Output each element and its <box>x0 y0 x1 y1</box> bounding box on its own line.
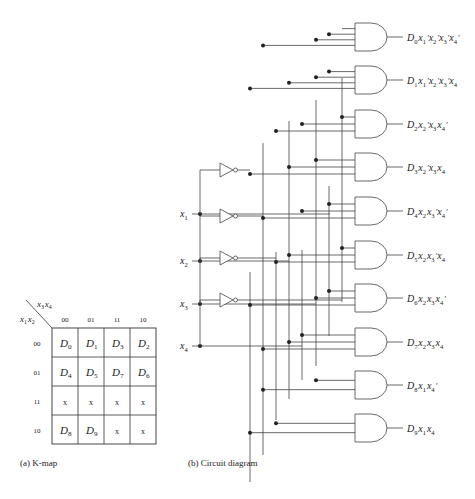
kmap-cell: D9 <box>85 424 98 439</box>
circuit-caption: (b) Circuit diagram <box>188 458 257 468</box>
kmap-cell-dontcare: x <box>115 427 119 436</box>
and-gate-icon <box>355 328 387 356</box>
input-label-x4: x4 <box>179 340 189 353</box>
junction-dot <box>248 86 252 90</box>
output-label-D9: D9 x1 x4 <box>406 423 435 436</box>
kmap-col-header: 00 <box>62 316 70 324</box>
kmap-row-header: 11 <box>34 398 41 406</box>
junction-dot <box>327 289 331 293</box>
junction-dot <box>287 165 291 169</box>
kmap-row-variable: x1 x2 <box>19 314 35 325</box>
junction-dot <box>261 347 265 351</box>
junction-dot <box>274 421 278 425</box>
junction-dot <box>300 122 304 126</box>
kmap-col-header: 11 <box>114 316 121 324</box>
and-gate-icon <box>355 414 387 442</box>
kmap-row-header: 00 <box>34 340 42 348</box>
junction-dot <box>274 260 278 264</box>
junction-dot <box>314 75 318 79</box>
and-gate-icon <box>355 153 387 181</box>
kmap-cell-dontcare: x <box>141 427 145 436</box>
kmap-cell: D8 <box>59 424 72 439</box>
kmap-row-header: 01 <box>34 369 42 377</box>
and-gate-icon <box>355 371 387 399</box>
not-gate-icon <box>220 209 233 223</box>
junction-dot <box>314 296 318 300</box>
and-gate-icon <box>355 110 387 138</box>
kmap-cell: D1 <box>85 337 98 352</box>
junction-dot <box>287 253 291 257</box>
junction-dot <box>248 303 252 307</box>
kmap-caption: (a) K-map <box>20 458 58 468</box>
and-gate-icon <box>355 241 387 269</box>
input-label-x2: x2 <box>179 255 189 268</box>
junction-dot <box>248 431 252 435</box>
kmap-cell: D4 <box>59 366 72 381</box>
kmap-cell: D2 <box>137 337 150 352</box>
junction-dot <box>314 38 318 42</box>
junction-dot <box>248 172 252 176</box>
junction-dot <box>287 340 291 344</box>
not-gate-icon <box>220 163 233 177</box>
decoder-diagram: x3 x4 x1 x2 0001111000011110D0 D1 D3 D2 … <box>0 0 475 499</box>
not-gate-icon <box>220 251 233 265</box>
output-label-D3: D3 x2 ′x3 x4 <box>406 162 446 175</box>
kmap-col-header: 10 <box>140 316 148 324</box>
not-gate-icon <box>220 293 233 307</box>
junction-dot <box>300 333 304 337</box>
junction-dot <box>340 246 344 250</box>
output-label-D2: D2 x2 ′x3 x4 ′ <box>406 119 448 132</box>
kmap-cell-dontcare: x <box>141 398 145 407</box>
output-label-D4: D4 x2 x3 ′x4 ′ <box>406 206 448 219</box>
junction-dot <box>314 378 318 382</box>
kmap-cell: D7 <box>111 366 124 381</box>
junction-dot <box>340 115 344 119</box>
output-label-D1: D1 x1 ′x2 ′x3 ′x4 <box>406 75 458 88</box>
output-label-D7: D7 x2 x3 x4 <box>406 337 444 350</box>
output-label-D6: D6 x2 x3 x4 ′ <box>406 293 446 306</box>
output-label-D8: D8 x1 x4 ′ <box>406 380 437 393</box>
and-gate-icon <box>355 197 387 225</box>
input-label-x1: x1 <box>179 208 189 221</box>
junction-dot <box>300 209 304 213</box>
kmap-cell: D3 <box>111 337 124 352</box>
and-gate-icon <box>355 284 387 312</box>
kmap-cell-dontcare: x <box>89 398 93 407</box>
kmap-cell: D6 <box>137 366 150 381</box>
kmap-cell-dontcare: x <box>115 398 119 407</box>
kmap-cell: D5 <box>85 366 98 381</box>
output-label-D0: D0 x1 ′x2 ′x3 ′x4 ′ <box>406 32 460 45</box>
junction-dot <box>314 158 318 162</box>
kmap-col-variable: x3 x4 <box>36 299 52 310</box>
junction-dot <box>327 70 331 74</box>
kmap-col-header: 01 <box>88 316 96 324</box>
kmap-row-header: 10 <box>34 427 42 435</box>
junction-dot <box>327 32 331 36</box>
k-map: x3 x4 x1 x2 0001111000011110D0 D1 D3 D2 … <box>19 299 156 444</box>
junction-dot <box>327 202 331 206</box>
junction-dot <box>274 129 278 133</box>
junction-dot <box>261 43 265 47</box>
output-label-D5: D5 x2 x3 ′x4 <box>406 250 446 263</box>
kmap-cell: D0 <box>59 337 72 352</box>
and-gate-icon <box>355 23 387 51</box>
junction-dot <box>261 216 265 220</box>
kmap-cell-dontcare: x <box>63 398 67 407</box>
input-label-x3: x3 <box>179 298 189 311</box>
junction-dot <box>261 388 265 392</box>
and-gate-icon <box>355 66 387 94</box>
circuit-diagram: x1 x2 x3 x4 D0 x1 ′x2 ′x3 ′x4 ′D1 x1 ′x2… <box>179 23 460 482</box>
junction-dot <box>287 81 291 85</box>
